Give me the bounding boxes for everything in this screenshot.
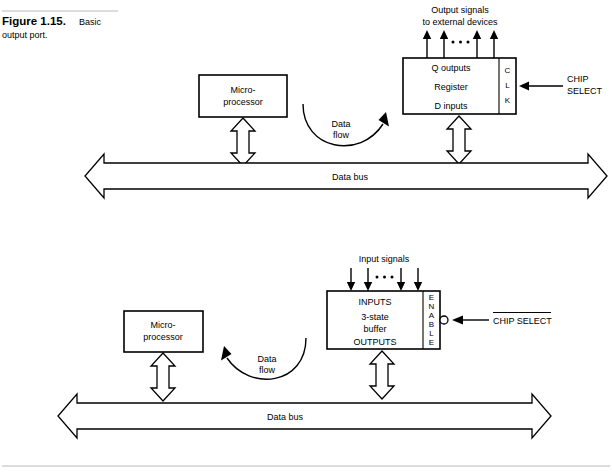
ellipsis-dot [467,41,470,44]
enable-pin-letter-b: B [429,320,434,329]
register-bus-connector-top [447,116,471,164]
chip-select-label-bottom: CHIP SELECT [493,316,552,326]
input-signal-arrows [347,268,422,291]
buffer-name-label-line2: buffer [364,324,387,334]
input-signals-label: Input signals [359,254,410,264]
figure-canvas: Figure 1.15. Basic output port. Output s… [0,0,612,474]
output-signals-label-line2: to external devices [422,17,498,27]
chip-select-connector-top [519,82,563,91]
figure-label: Figure 1.15. [2,15,66,27]
cpu-bus-connector-bottom [151,353,175,401]
ellipsis-dot [376,276,379,279]
microprocessor-box-top [199,75,287,117]
ellipsis-dot [452,41,455,44]
data-flow-label-line1: Data [331,119,350,129]
data-bus-label-bottom: Data bus [267,412,304,422]
clk-pin-letter-l: L [505,81,510,90]
microprocessor-label-line2: processor [223,97,263,107]
buffer-bus-connector-bottom [370,351,394,399]
clk-pin-letter-k: K [505,96,511,105]
enable-pin-letter-n: N [429,302,435,311]
data-flow-label-line2-bottom: flow [259,365,276,375]
microprocessor-label-line2-bottom: processor [143,332,183,342]
register-d-inputs-label: D inputs [434,101,468,111]
output-signals-label-line1: Output signals [431,5,489,15]
microprocessor-label-line1-bottom: Micro- [151,320,176,330]
input-port-diagram: Input signals INPUTS 3-state buffer OUTP… [58,254,552,438]
ellipsis-dot [459,41,462,44]
register-name-label: Register [434,82,468,92]
enable-pin-letter-a: A [429,311,435,320]
microprocessor-label-line1: Micro- [231,85,256,95]
chip-select-label-line1: CHIP [567,74,589,84]
enable-pin-letter-l: L [429,329,434,338]
data-flow-label-line1-bottom: Data [257,354,276,364]
enable-pin-letter-e1: E [429,293,434,302]
cpu-bus-connector-top [231,118,255,166]
data-bus-bottom [58,394,551,438]
data-bus-label-top: Data bus [332,172,369,182]
buffer-inputs-label: INPUTS [358,297,391,307]
register-q-outputs-label: Q outputs [431,63,471,73]
invert-bubble-icon [440,316,448,324]
ellipsis-dot [383,276,386,279]
output-signal-arrows [423,30,498,58]
ellipsis-dot [391,276,394,279]
output-port-diagram: Output signals to external devices Q out… [85,5,607,198]
chip-select-label-line2: SELECT [567,86,603,96]
enable-pin-letter-e2: E [429,338,434,347]
figure-caption-line2: output port. [2,30,48,40]
buffer-outputs-label: OUTPUTS [353,337,396,347]
chip-select-connector-bottom [452,315,489,324]
buffer-name-label-line1: 3-state [361,312,389,322]
data-flow-label-line2: flow [333,130,350,140]
clk-pin-letter-c: C [505,66,511,75]
figure-caption-line1: Basic [79,17,102,27]
